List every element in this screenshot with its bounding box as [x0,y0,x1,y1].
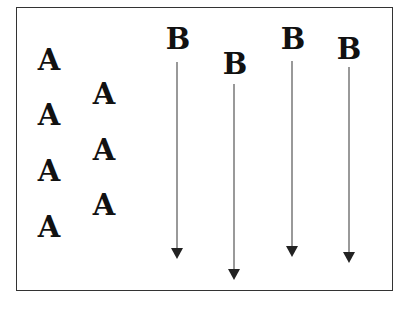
down-arrow-icon-3 [286,61,298,257]
down-arrow-icon-1 [171,62,183,259]
down-arrow-icon-4 [343,67,355,263]
falling-arrows [0,0,409,313]
down-arrow-icon-2 [228,84,240,280]
